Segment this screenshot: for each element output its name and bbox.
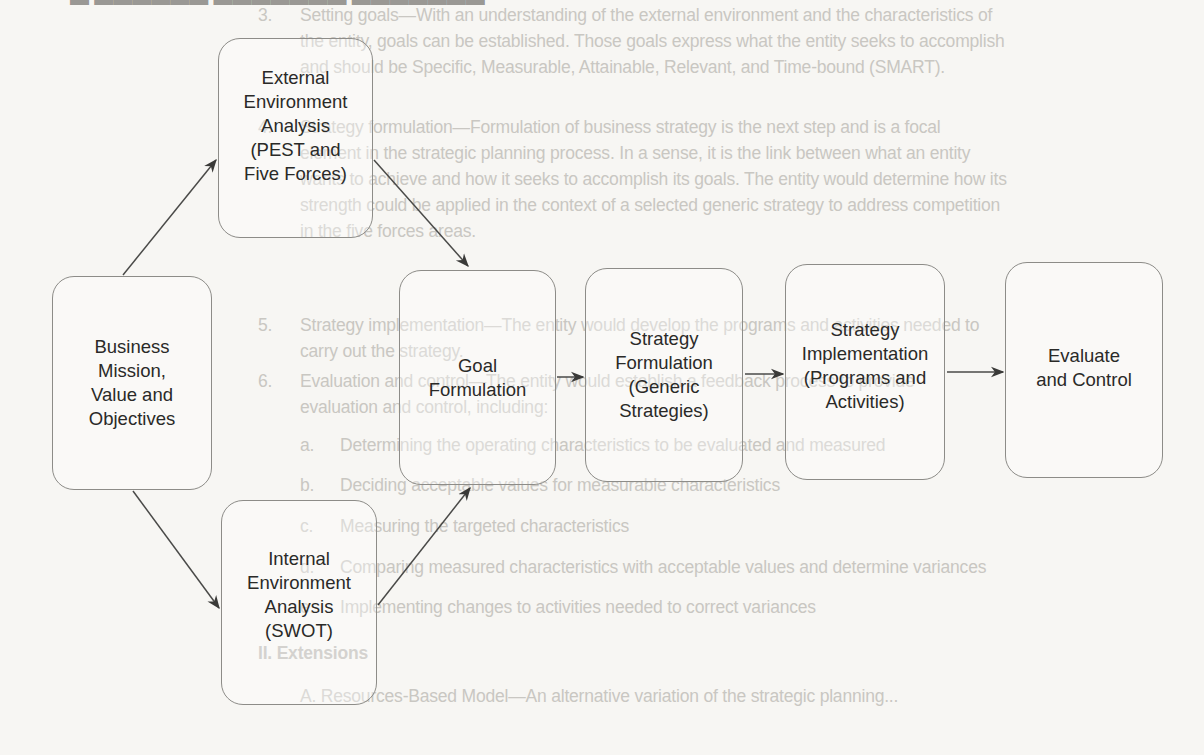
node-business-mission: Business Mission, Value and Objectives bbox=[52, 276, 212, 490]
node-strategy-formulation: Strategy Formulation (Generic Strategies… bbox=[585, 268, 743, 482]
node-goal-formulation: Goal Formulation bbox=[399, 270, 556, 485]
edge-external-to-goal bbox=[374, 160, 468, 266]
edge-mission-to-external bbox=[123, 160, 216, 275]
edge-internal-to-goal bbox=[378, 488, 470, 605]
node-strategy-implementation: Strategy Implementation (Programs and Ac… bbox=[785, 264, 945, 480]
edge-mission-to-internal bbox=[133, 491, 219, 608]
document-page: ▬ ▬▬▬▬▬▬ ▬▬▬▬▬▬▬ ▬▬▬▬▬▬▬ 3. Setting goal… bbox=[0, 0, 1204, 755]
node-evaluate-and-control: Evaluate and Control bbox=[1005, 262, 1163, 478]
node-internal-environment-analysis: Internal Environment Analysis (SWOT) bbox=[221, 500, 377, 705]
node-external-environment-analysis: External Environment Analysis (PEST and … bbox=[218, 38, 373, 238]
